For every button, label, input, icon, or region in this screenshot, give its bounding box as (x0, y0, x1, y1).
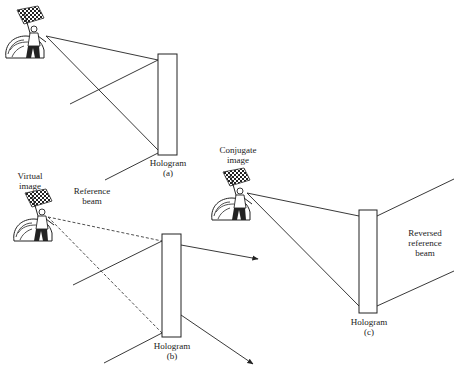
hologram-b-label: Hologram (b) (154, 341, 191, 361)
virtual-image-label: Virtual image (18, 171, 43, 191)
hologram-diagram: Hologram (a) Reference beam Virtual imag… (0, 0, 462, 377)
conjugate-image-label: Conjugate image (220, 145, 257, 165)
hologram-a-plate (158, 54, 177, 155)
panel-a (6, 6, 177, 180)
virtual-image-figure-icon (14, 189, 54, 241)
hologram-a-label: Hologram (a) (150, 158, 187, 178)
reference-beam-label: Reference beam (74, 186, 110, 206)
hologram-c-plate (359, 210, 377, 313)
diagram-canvas (0, 0, 462, 377)
hologram-c-label: Hologram (c) (351, 317, 388, 337)
conjugate-image-figure-icon (212, 168, 252, 220)
object-figure-icon (6, 6, 46, 58)
hologram-b-plate (162, 234, 181, 337)
reversed-reference-beam-label: Reversed reference beam (408, 228, 442, 258)
